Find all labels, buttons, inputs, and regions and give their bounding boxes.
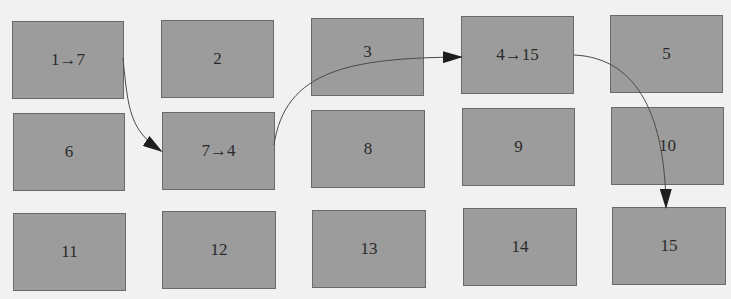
box-4: 4→15 <box>461 16 574 94</box>
box-label: 5 <box>662 44 671 64</box>
box-10: 10 <box>611 107 724 185</box>
box-8: 8 <box>311 110 425 188</box>
box-label: 11 <box>61 242 77 262</box>
box-1: 1→7 <box>12 21 124 99</box>
box-14: 14 <box>463 208 577 286</box>
box-label: 8 <box>364 139 373 159</box>
box-13: 13 <box>312 210 426 288</box>
box-label: 14 <box>512 237 529 257</box>
box-11: 11 <box>13 213 126 291</box>
box-6: 6 <box>13 113 125 191</box>
box-label: 15 <box>661 236 678 256</box>
box-9: 9 <box>462 108 575 186</box>
box-2: 2 <box>161 20 274 98</box>
box-label: 2 <box>213 49 222 69</box>
box-12: 12 <box>162 211 276 289</box>
box-label: 12 <box>211 240 228 260</box>
box-label: 1→7 <box>51 50 85 70</box>
box-15: 15 <box>612 207 726 285</box>
box-label: 6 <box>65 142 74 162</box>
arrow-1-to-7 <box>123 58 161 151</box>
box-5: 5 <box>610 15 723 93</box>
box-label: 7→4 <box>202 141 236 161</box>
box-label: 9 <box>514 137 523 157</box>
box-label: 10 <box>659 136 676 156</box>
box-label: 13 <box>361 239 378 259</box>
box-3: 3 <box>311 18 424 96</box>
box-label: 4→15 <box>496 45 539 65</box>
box-label: 3 <box>363 42 372 62</box>
box-7: 7→4 <box>162 112 275 190</box>
